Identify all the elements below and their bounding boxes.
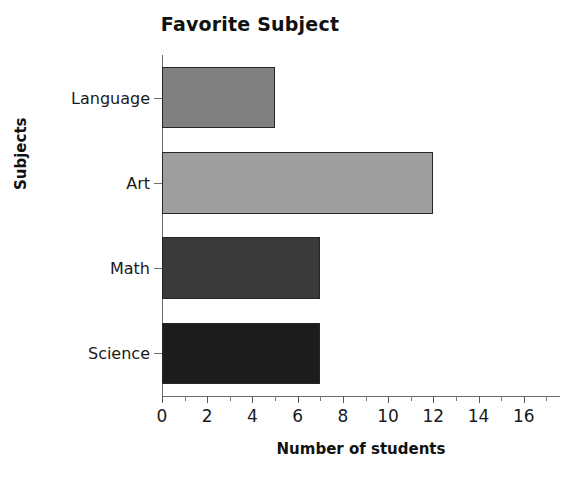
bar-chart-figure: Favorite Subject LanguageArtMathScience … bbox=[0, 0, 576, 481]
x-axis-title: Number of students bbox=[162, 440, 560, 458]
x-tick-minor bbox=[546, 396, 547, 401]
x-tick-label-4: 4 bbox=[247, 406, 258, 426]
x-tick-major bbox=[252, 396, 253, 403]
x-tick-label-16: 16 bbox=[513, 406, 535, 426]
x-tick-label-2: 2 bbox=[202, 406, 213, 426]
bar-math bbox=[162, 237, 320, 298]
x-tick-minor bbox=[230, 396, 231, 401]
x-tick-major bbox=[479, 396, 480, 403]
x-tick-major bbox=[343, 396, 344, 403]
x-tick-major bbox=[388, 396, 389, 403]
y-tick-label-science: Science bbox=[88, 344, 150, 363]
chart-title: Favorite Subject bbox=[0, 13, 500, 35]
x-tick-major bbox=[162, 396, 163, 403]
x-tick-minor bbox=[501, 396, 502, 401]
x-tick-minor bbox=[185, 396, 186, 401]
y-tick-mark bbox=[154, 98, 162, 99]
y-tick-label-language: Language bbox=[71, 88, 150, 107]
x-tick-label-6: 6 bbox=[292, 406, 303, 426]
x-tick-major bbox=[298, 396, 299, 403]
y-tick-mark bbox=[154, 353, 162, 354]
x-tick-minor bbox=[456, 396, 457, 401]
y-tick-label-math: Math bbox=[110, 259, 150, 278]
x-tick-label-8: 8 bbox=[337, 406, 348, 426]
x-tick-label-10: 10 bbox=[377, 406, 399, 426]
x-tick-minor bbox=[320, 396, 321, 401]
y-axis-title: Subjects bbox=[12, 117, 30, 190]
x-tick-label-14: 14 bbox=[468, 406, 490, 426]
y-tick-label-art: Art bbox=[126, 173, 150, 192]
bar-language bbox=[162, 67, 275, 128]
x-tick-major bbox=[207, 396, 208, 403]
x-tick-major bbox=[524, 396, 525, 403]
x-tick-minor bbox=[366, 396, 367, 401]
bar-art bbox=[162, 152, 433, 213]
x-tick-label-0: 0 bbox=[157, 406, 168, 426]
y-tick-mark bbox=[154, 183, 162, 184]
y-tick-mark bbox=[154, 268, 162, 269]
x-tick-minor bbox=[411, 396, 412, 401]
x-tick-major bbox=[433, 396, 434, 403]
bar-science bbox=[162, 323, 320, 384]
x-tick-label-12: 12 bbox=[423, 406, 445, 426]
plot-area: LanguageArtMathScience 0246810121416 bbox=[162, 55, 560, 396]
x-tick-minor bbox=[275, 396, 276, 401]
